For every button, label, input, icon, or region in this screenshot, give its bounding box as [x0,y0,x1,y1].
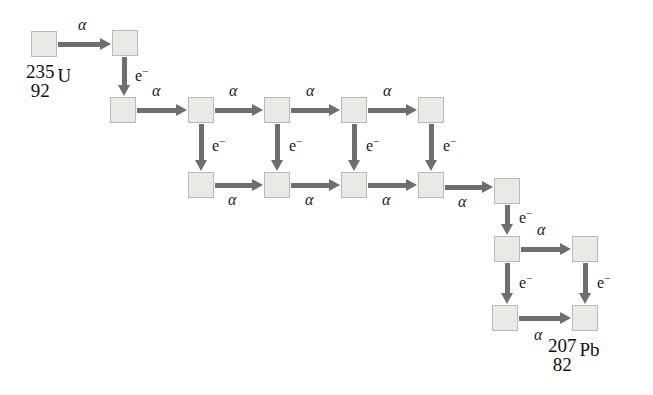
electron-arrow-r1c2-r2c1 [122,57,127,86]
alpha-arrow-r3-c3-c4-label: α [382,192,390,208]
nuclide-box-r1-c2 [112,30,138,56]
nuclide-box-r2-c4 [341,97,367,123]
electron-charge-superscript: − [450,135,456,147]
electron-arrow-r2c5-r3c4 [429,124,434,161]
electron-arrow-r2c2-r3c1 [199,124,204,161]
nuclide-label-u235: 23592U [26,62,71,101]
alpha-arrow-r3-c4-c5 [445,185,483,190]
nuclide-box-r3-c2 [264,172,290,198]
electron-charge-superscript: − [604,272,610,284]
electron-arrow-r1c2-r2c1-label: e− [135,66,148,84]
alpha-arrow-r2-c1-c2 [137,108,177,113]
alpha-arrow-r2-c2-c3 [215,108,253,113]
electron-arrow-r3c5-r4c1 [505,205,510,225]
nuclide-box-r2-c2 [188,97,214,123]
nuclide-box-r4-c2 [572,236,598,262]
alpha-arrow-r3-c1-c2-label: α [228,192,236,208]
nuclide-box-r5-c2 [572,305,598,331]
electron-arrow-r3c5-r4c1-label: e− [519,208,532,226]
alpha-arrow-r5-c1-c2 [519,316,561,321]
alpha-arrow-r1-c1-c2-label: α [78,17,86,33]
electron-charge-superscript: − [526,207,532,219]
atomic-number: 92 [26,81,55,100]
element-symbol: U [55,65,72,87]
electron-arrow-r2c3-r3c2 [275,124,280,161]
nuclide-label-pb207: 20782Pb [548,336,600,375]
alpha-arrow-r3-c1-c2 [215,183,253,188]
alpha-arrow-r5-c1-c2-label: α [534,327,542,343]
alpha-arrow-r3-c3-c4 [368,183,407,188]
nuclide-box-r2-c1 [110,97,136,123]
alpha-arrow-r1-c1-c2 [58,42,101,47]
decay-chain-diagram: αααααααααααe−e−e−e−e−e−e−e−23592U20782Pb [0,0,653,395]
alpha-arrow-r3-c2-c3 [291,183,330,188]
electron-charge-superscript: − [219,135,225,147]
alpha-arrow-r4-c1-c2 [521,247,561,252]
alpha-arrow-r2-c2-c3-label: α [229,83,237,99]
electron-arrow-r4c1-r5c1 [505,263,510,294]
electron-arrow-r4c2-r5c2 [583,263,588,294]
nuclide-numbers: 23592 [26,62,55,101]
alpha-arrow-r2-c1-c2-label: α [152,83,160,99]
electron-charge-superscript: − [296,135,302,147]
nuclide-box-r3-c3 [341,172,367,198]
nuclide-box-r4-c1 [494,236,520,262]
mass-number: 235 [26,62,55,81]
electron-arrow-r2c4-r3c3 [352,124,357,161]
nuclide-box-r3-c4 [418,172,444,198]
alpha-arrow-r2-c4-c5-label: α [383,83,391,99]
element-symbol: Pb [577,339,600,361]
nuclide-box-r2-c3 [264,97,290,123]
nuclide-box-r3-c1 [188,172,214,198]
alpha-arrow-r2-c3-c4 [291,108,330,113]
electron-charge-superscript: − [142,65,148,77]
nuclide-box-r1-c1 [31,31,57,57]
nuclide-box-r5-c1 [492,305,518,331]
electron-arrow-r4c2-r5c2-label: e− [597,273,610,291]
alpha-arrow-r3-c2-c3-label: α [305,192,313,208]
nuclide-box-r3-c5 [494,178,520,204]
mass-number: 207 [548,336,577,355]
atomic-number: 82 [548,355,577,374]
electron-arrow-r2c3-r3c2-label: e− [289,136,302,154]
alpha-arrow-r2-c4-c5 [368,108,407,113]
nuclide-numbers: 20782 [548,336,577,375]
electron-arrow-r2c4-r3c3-label: e− [366,136,379,154]
electron-charge-superscript: − [526,272,532,284]
electron-arrow-r4c1-r5c1-label: e− [519,273,532,291]
alpha-arrow-r4-c1-c2-label: α [537,222,545,238]
alpha-arrow-r2-c3-c4-label: α [306,83,314,99]
electron-arrow-r2c5-r3c4-label: e− [443,136,456,154]
electron-arrow-r2c2-r3c1-label: e− [212,136,225,154]
nuclide-box-r2-c5 [418,97,444,123]
alpha-arrow-r3-c4-c5-label: α [458,194,466,210]
electron-charge-superscript: − [373,135,379,147]
